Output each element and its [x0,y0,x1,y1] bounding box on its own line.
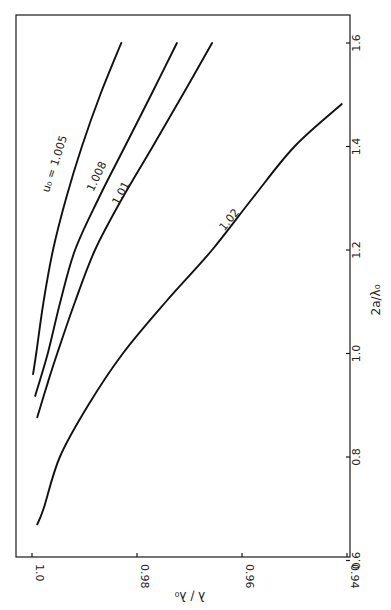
curve-u0-1.005 [33,43,121,374]
curve-u0-1.01 [37,43,212,417]
curve-label: u₀ = 1.005 [39,134,70,194]
y-axis-label: λ / λ₀ [174,589,205,603]
y-tick-label: 0.96 [243,564,256,589]
curves [33,43,342,524]
x-tick-label: 1.6 [350,34,363,52]
curve-u0-1.008 [35,43,177,396]
curve-label: 1.008 [84,159,109,193]
y-tick-label: 0.94 [348,564,361,589]
curve-label: 1.01 [109,179,132,207]
curve-label: 1.02 [216,206,242,233]
curve-u0-1.02 [37,104,342,524]
x-axis-ticks: 0.60.81.01.21.41.6 [346,34,363,569]
x-tick-label: 1.0 [350,345,363,363]
x-tick-label: 1.4 [350,138,363,156]
x-axis-label: 2a/λ₀ [369,284,383,315]
y-tick-label: 0.98 [138,564,151,589]
plot-frame [16,15,350,557]
x-tick-label: 0.8 [350,448,363,466]
rotated-line-chart: 0.60.81.01.21.41.6 1.00.980.960.94 u₀ = … [0,0,391,610]
y-tick-label: 1.0 [33,564,46,582]
x-tick-label: 1.2 [350,241,363,259]
y-axis-ticks: 1.00.980.960.94 [32,553,361,589]
